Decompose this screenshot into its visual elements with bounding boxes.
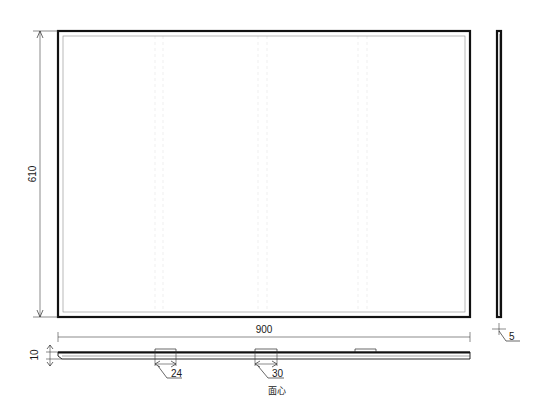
dimension-thickness-10: 10: [29, 345, 62, 366]
notch30-label: 30: [272, 368, 284, 379]
side-view-group: [497, 31, 501, 317]
side5-label: 5: [509, 331, 515, 342]
dimension-width-900: 900: [58, 324, 470, 342]
dimension-side-thickness-5: 5: [492, 323, 520, 342]
notch24-label: 24: [171, 368, 183, 379]
panel-inner-frame: [63, 36, 465, 312]
panel-outer-frame: [58, 31, 470, 317]
hidden-lines-group: [155, 36, 367, 312]
side-profile-outline: [497, 31, 501, 317]
bottom-view-group: [58, 349, 470, 359]
cad-drawing-svg: 610 900: [0, 0, 542, 417]
dimension-height-610: 610: [27, 31, 58, 317]
thickness-dim-label: 10: [29, 349, 40, 361]
technical-drawing-canvas: 610 900: [0, 0, 542, 417]
width-dim-label: 900: [256, 324, 273, 335]
front-view-group: [58, 31, 470, 317]
height-dim-label: 610: [27, 165, 38, 182]
bottom-view-label: 面心: [268, 386, 286, 396]
